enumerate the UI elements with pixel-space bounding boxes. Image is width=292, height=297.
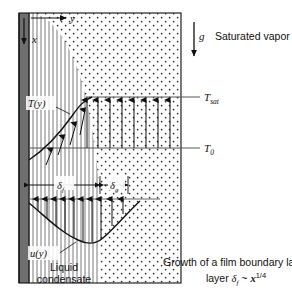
t-sat-subscript: sat [210, 97, 220, 106]
axis-y-label: y [69, 12, 75, 24]
liquid-condensate-label-line2: condensate [37, 273, 91, 285]
figure-canvas: y x g Saturated vapor Tsat T0 T(y) [0, 0, 292, 297]
velocity-profile-label: u(y) [30, 248, 47, 260]
temperature-profile-label: T(y) [28, 98, 46, 110]
caption-exponent: 1/4 [256, 271, 266, 280]
liquid-condensate-label-line1: Liquid [50, 261, 78, 273]
delta-g-subscript: g [115, 186, 119, 194]
t-zero-subscript: 0 [210, 148, 214, 157]
gravity-label: g [199, 30, 205, 42]
caption-relation: ~ [238, 272, 250, 284]
condensation-film-figure: y x g Saturated vapor Tsat T0 T(y) [0, 0, 292, 297]
axis-x-label: x [31, 33, 37, 45]
figure-caption-line1: Growth of a film boundary layer [163, 256, 292, 268]
caption-prefix: layer [206, 272, 232, 284]
solid-wall [19, 13, 29, 283]
saturated-vapor-label: Saturated vapor [215, 30, 290, 42]
